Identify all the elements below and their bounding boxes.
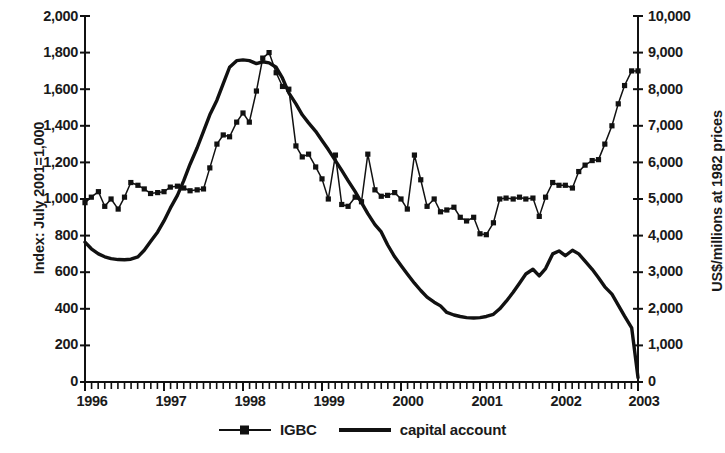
legend-label-capital-account: capital account <box>400 421 506 438</box>
series-igbc-line <box>85 53 638 235</box>
series-capital-account-line <box>85 60 638 378</box>
x-tick-1997: 1997 <box>141 393 201 409</box>
y-right-tick-5000: 5,000 <box>648 190 708 206</box>
legend-swatch-igbc <box>217 423 273 437</box>
y-left-tick-600: 600 <box>18 263 78 279</box>
y-left-tick-2000: 2,000 <box>18 8 78 24</box>
y-right-tick-10000: 10,000 <box>648 8 708 24</box>
x-tick-2003: 2003 <box>614 393 674 409</box>
y-right-tick-8000: 8,000 <box>648 81 708 97</box>
y-right-tick-2000: 2,000 <box>648 300 708 316</box>
right-axis-title: US$/millions at 1982 prices <box>709 76 725 326</box>
y-left-tick-1800: 1,800 <box>18 44 78 60</box>
series-igbc-markers <box>82 50 640 237</box>
y-right-tick-3000: 3,000 <box>648 263 708 279</box>
y-left-tick-1400: 1,400 <box>18 117 78 133</box>
x-tick-2001: 2001 <box>457 393 517 409</box>
chart-legend: IGBC capital account <box>0 421 723 438</box>
y-right-tick-6000: 6,000 <box>648 154 708 170</box>
y-left-tick-1000: 1,000 <box>18 190 78 206</box>
y-left-tick-1600: 1,600 <box>18 81 78 97</box>
y-left-tick-0: 0 <box>18 373 78 389</box>
legend-item-capital-account: capital account <box>337 421 506 438</box>
y-left-tick-200: 200 <box>18 336 78 352</box>
y-right-tick-9000: 9,000 <box>648 44 708 60</box>
y-right-tick-0: 0 <box>648 373 708 389</box>
x-tick-2002: 2002 <box>536 393 596 409</box>
x-tick-1996: 1996 <box>62 393 122 409</box>
y-right-tick-1000: 1,000 <box>648 336 708 352</box>
x-tick-1998: 1998 <box>220 393 280 409</box>
x-tick-1999: 1999 <box>299 393 359 409</box>
legend-swatch-capital-account <box>337 423 393 437</box>
legend-item-igbc: IGBC <box>217 421 317 438</box>
x-tick-2000: 2000 <box>378 393 438 409</box>
y-right-tick-4000: 4,000 <box>648 227 708 243</box>
y-right-tick-7000: 7,000 <box>648 117 708 133</box>
y-left-tick-1200: 1,200 <box>18 154 78 170</box>
y-left-tick-800: 800 <box>18 227 78 243</box>
legend-label-igbc: IGBC <box>280 421 317 438</box>
y-left-tick-400: 400 <box>18 300 78 316</box>
